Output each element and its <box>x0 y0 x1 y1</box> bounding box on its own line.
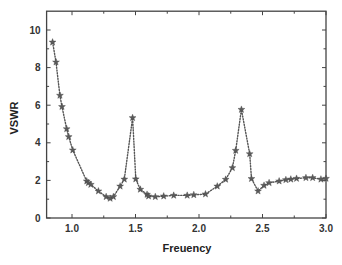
star-marker-icon <box>293 175 300 182</box>
star-marker-icon <box>152 193 159 200</box>
y-axis-title: VSWR <box>8 101 20 134</box>
vswr-chart: 1.01.52.02.53.0 0246810 Freuency VSWR <box>0 0 342 265</box>
star-marker-icon <box>276 178 283 185</box>
x-axis-ticks: 1.01.52.02.53.0 <box>65 11 333 234</box>
y-tick-label: 4 <box>35 137 41 148</box>
x-tick-label: 1.0 <box>65 223 79 234</box>
x-tick-label: 2.0 <box>192 223 206 234</box>
star-marker-icon <box>69 147 76 154</box>
y-tick-label: 2 <box>35 175 41 186</box>
y-tick-label: 8 <box>35 62 41 73</box>
star-marker-icon <box>117 183 124 190</box>
star-marker-icon <box>170 192 177 199</box>
plot-frame <box>47 11 326 218</box>
x-tick-label: 3.0 <box>319 223 333 234</box>
star-marker-icon <box>160 193 167 200</box>
x-axis-title: Freuency <box>163 242 213 254</box>
star-marker-icon <box>309 174 316 181</box>
star-marker-icon <box>229 164 236 171</box>
chart-canvas: 1.01.52.02.53.0 0246810 Freuency VSWR <box>0 0 342 265</box>
y-axis-ticks: 0246810 <box>29 25 326 224</box>
plot-border <box>47 11 326 218</box>
data-series <box>49 39 329 202</box>
star-marker-icon <box>318 176 325 183</box>
star-marker-icon <box>121 176 128 183</box>
y-tick-label: 10 <box>29 25 41 36</box>
star-marker-icon <box>184 192 191 199</box>
star-marker-icon <box>287 176 294 183</box>
star-marker-icon <box>132 175 139 182</box>
star-marker-icon <box>248 175 255 182</box>
star-marker-icon <box>49 39 56 46</box>
y-tick-label: 6 <box>35 100 41 111</box>
star-marker-icon <box>303 174 310 181</box>
star-marker-icon <box>282 176 289 183</box>
x-tick-label: 2.5 <box>256 223 270 234</box>
star-marker-icon <box>190 191 197 198</box>
series-line <box>53 42 326 198</box>
star-marker-icon <box>202 191 209 198</box>
y-tick-label: 0 <box>35 213 41 224</box>
x-tick-label: 1.5 <box>129 223 143 234</box>
